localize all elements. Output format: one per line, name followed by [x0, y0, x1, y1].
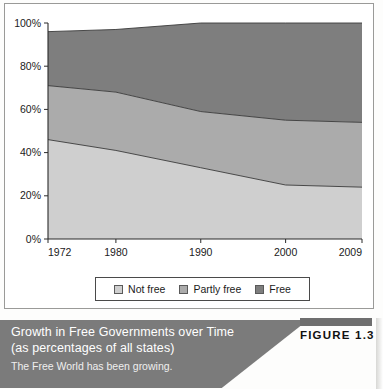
- legend-item-free[interactable]: Free: [255, 283, 291, 295]
- svg-text:2000: 2000: [274, 246, 298, 258]
- page-edge-shade: [376, 318, 383, 389]
- legend-label-free: Free: [269, 283, 291, 295]
- svg-text:100%: 100%: [14, 17, 41, 29]
- caption-text-block: Growth in Free Governments over Time (as…: [11, 325, 261, 373]
- chart-legend: Not free Partly free Free: [95, 277, 310, 301]
- legend-item-not-free[interactable]: Not free: [114, 283, 165, 295]
- svg-text:80%: 80%: [20, 60, 41, 72]
- legend-label-not-free: Not free: [128, 283, 165, 295]
- chart-canvas: 0%20%40%60%80%100%19721980199020002009: [4, 3, 374, 273]
- figure-number-block: FIGURE 1.3: [300, 318, 378, 341]
- svg-text:1990: 1990: [189, 246, 213, 258]
- figure-root: 0%20%40%60%80%100%19721980199020002009 N…: [0, 0, 383, 389]
- caption-subtitle: The Free World has been growing.: [11, 359, 261, 373]
- figure-accent-bar: [300, 318, 372, 326]
- legend-swatch-free: [255, 285, 264, 294]
- svg-text:40%: 40%: [20, 146, 41, 158]
- legend-swatch-partly-free: [179, 285, 188, 294]
- caption-title-line2: (as percentages of all states): [11, 341, 261, 357]
- svg-text:1980: 1980: [104, 246, 128, 258]
- svg-text:2009: 2009: [339, 246, 363, 258]
- svg-text:1972: 1972: [48, 246, 72, 258]
- stacked-area-chart: 0%20%40%60%80%100%19721980199020002009: [4, 3, 374, 273]
- legend-swatch-not-free: [114, 285, 123, 294]
- svg-text:0%: 0%: [26, 233, 41, 245]
- caption-title-line1: Growth in Free Governments over Time: [11, 325, 261, 341]
- legend-label-partly-free: Partly free: [193, 283, 241, 295]
- svg-text:20%: 20%: [20, 189, 41, 201]
- figure-label: FIGURE 1.3: [300, 329, 378, 341]
- legend-item-partly-free[interactable]: Partly free: [179, 283, 241, 295]
- svg-text:60%: 60%: [20, 103, 41, 115]
